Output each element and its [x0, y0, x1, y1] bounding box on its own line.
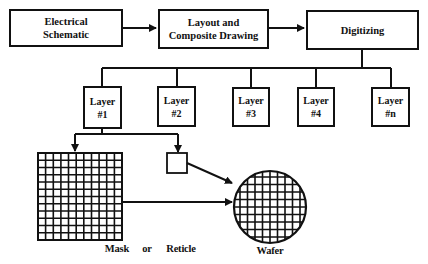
layer-1-number: #1 — [90, 108, 116, 121]
mask-label: Mask — [100, 242, 134, 255]
layer-n-label: Layer — [378, 94, 404, 107]
layer-3-label: Layer — [238, 94, 264, 107]
digitizing-box: Digitizing — [306, 10, 419, 50]
wafer-icon — [233, 170, 307, 244]
layer-n-box: Layer#n — [371, 87, 410, 127]
layer-3-box: Layer#3 — [232, 87, 270, 127]
mask-grid-icon — [38, 153, 122, 240]
or-label: or — [140, 242, 154, 255]
electrical-schematic-box: Electrical Schematic — [9, 9, 123, 47]
wafer-label: Wafer — [250, 244, 290, 257]
layout-composite-box: Layout and Composite Drawing — [158, 9, 269, 49]
electrical-schematic-line2: Schematic — [43, 28, 89, 41]
layer-n-number: #n — [378, 107, 404, 120]
arrow-reticle-to-wafer — [187, 163, 232, 183]
digitizing-label: Digitizing — [341, 24, 385, 37]
layer-2-label: Layer — [164, 94, 190, 107]
layer-1-box: Layer#1 — [83, 86, 122, 129]
layout-composite-line1: Layout and — [169, 16, 259, 29]
layer-2-box: Layer#2 — [157, 86, 196, 127]
layer-4-box: Layer#4 — [297, 87, 335, 127]
layer-4-number: #4 — [303, 107, 329, 120]
reticle-icon — [167, 153, 187, 173]
layer-4-label: Layer — [303, 94, 329, 107]
reticle-label: Reticle — [161, 242, 201, 255]
layer-2-number: #2 — [164, 107, 190, 120]
layout-composite-line2: Composite Drawing — [169, 29, 259, 42]
layer-3-number: #3 — [238, 107, 264, 120]
electrical-schematic-line1: Electrical — [43, 15, 89, 28]
layer-1-label: Layer — [90, 95, 116, 108]
